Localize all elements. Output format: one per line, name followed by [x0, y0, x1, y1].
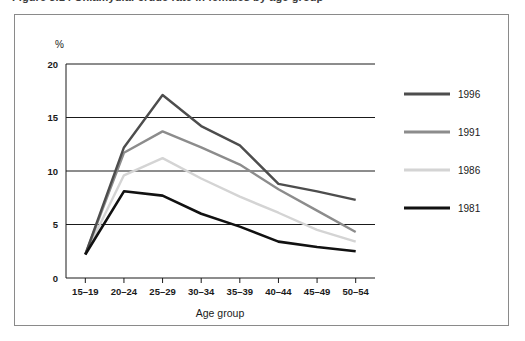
x-tick-label: 20–24	[111, 286, 138, 297]
x-tick-labels-group: 15–1920–2425–2930–3435–3940–4445–4950–54	[72, 286, 370, 297]
legend-label-1981: 1981	[458, 203, 481, 214]
series-line-1986	[85, 158, 355, 254]
x-tick-label: 40–44	[265, 286, 292, 297]
x-axis-title: Age group	[196, 307, 245, 319]
y-tick-label: 5	[53, 219, 59, 230]
x-tick-label: 50–54	[342, 286, 369, 297]
y-tick-label: 10	[47, 166, 58, 177]
y-tick-label: 20	[47, 59, 58, 70]
series-line-1991	[85, 131, 355, 254]
chart-plot: 05101520 15–1920–2425–2930–3435–3940–444…	[0, 0, 525, 341]
x-tick-marks-group	[85, 278, 355, 283]
y-tick-label: 0	[53, 273, 58, 284]
x-tick-label: 25–29	[149, 286, 175, 297]
chart-legend: 1996199119861981	[404, 89, 481, 214]
y-tick-label: 15	[47, 112, 58, 123]
y-tick-labels-group: 05101520	[47, 59, 58, 284]
x-tick-label: 30–34	[188, 286, 215, 297]
x-tick-label: 35–39	[227, 286, 253, 297]
data-series-group	[85, 95, 355, 254]
legend-label-1986: 1986	[458, 165, 481, 176]
x-tick-label: 45–49	[304, 286, 330, 297]
legend-label-1991: 1991	[458, 127, 481, 138]
series-line-1981	[85, 191, 355, 254]
legend-label-1996: 1996	[458, 89, 481, 100]
y-axis-unit-label: %	[55, 39, 64, 50]
figure-root: Figure 3.14 Chlamydia: crude rate in fem…	[0, 0, 525, 341]
x-tick-label: 15–19	[72, 286, 98, 297]
